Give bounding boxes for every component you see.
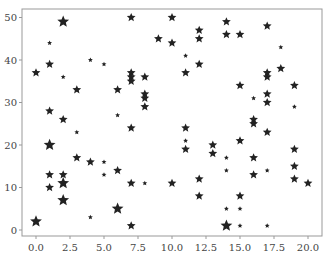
y-axis: 01020304050 [4,12,22,236]
y-tick-label: 40 [4,55,17,66]
x-tick-label: 17.5 [263,242,285,253]
x-tick-label: 12.5 [195,242,217,253]
x-tick-label: 7.5 [130,242,146,253]
x-tick-label: 0.0 [28,242,44,253]
y-tick-label: 30 [4,97,17,108]
x-tick-label: 10.0 [161,242,183,253]
y-tick-label: 10 [4,182,17,193]
x-tick-label: 5.0 [96,242,112,253]
y-tick-label: 50 [4,12,17,23]
x-tick-label: 20.0 [297,242,319,253]
x-tick-label: 15.0 [229,242,251,253]
scatter-chart: 01020304050 0.02.55.07.510.012.515.017.5… [0,0,331,257]
y-tick-label: 20 [4,140,17,151]
x-tick-label: 2.5 [62,242,78,253]
x-axis: 0.02.55.07.510.012.515.017.520.0 [28,236,319,253]
y-tick-label: 0 [11,225,17,236]
